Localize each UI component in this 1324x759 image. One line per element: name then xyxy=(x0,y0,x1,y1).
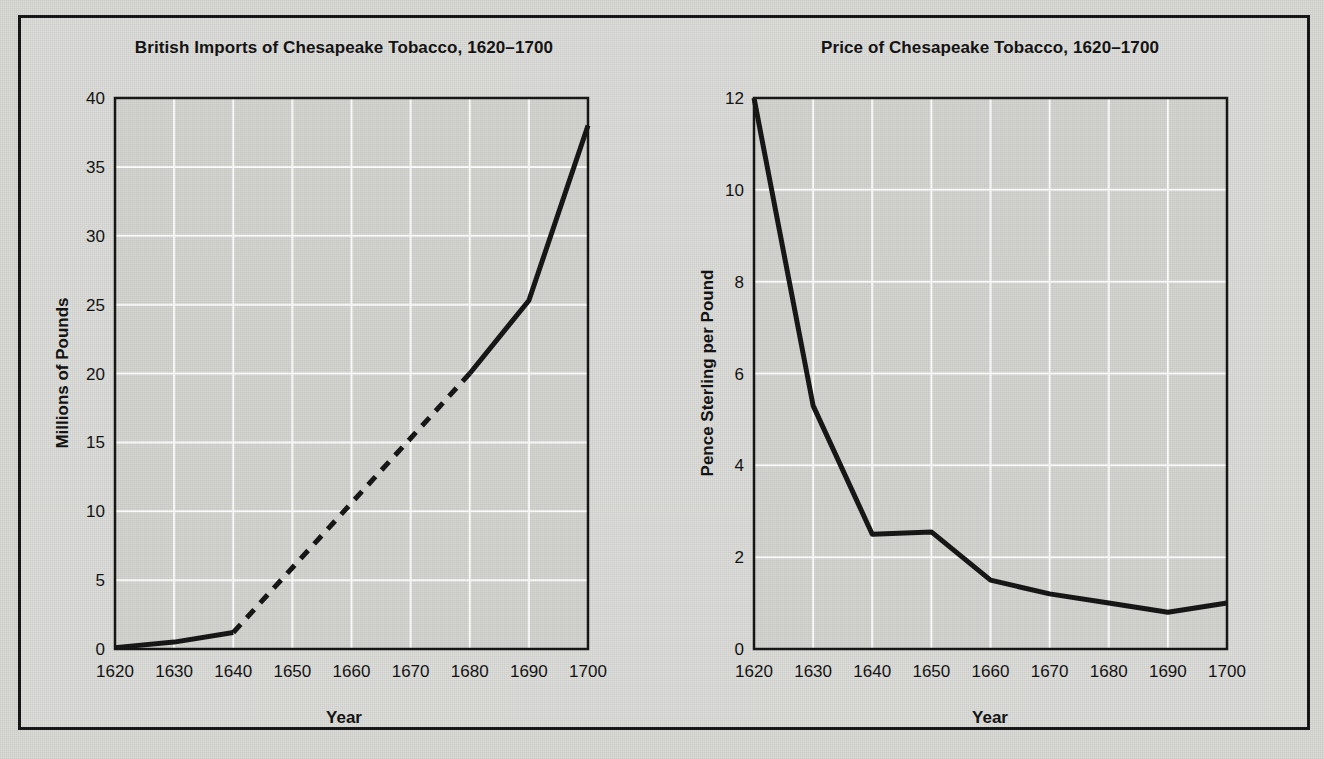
x-tick-label: 1620 xyxy=(96,662,134,681)
x-axis-label-year-left: Year xyxy=(21,708,667,728)
plot-area-tobacco-price: 0246810121620163016401650166016701680169… xyxy=(667,18,1313,733)
x-tick-label: 1680 xyxy=(451,662,489,681)
x-tick-label: 1700 xyxy=(1208,662,1246,681)
x-tick-label: 1670 xyxy=(1031,662,1069,681)
y-tick-label: 15 xyxy=(86,433,105,452)
x-tick-label: 1630 xyxy=(794,662,832,681)
y-tick-label: 10 xyxy=(86,502,105,521)
x-tick-label: 1670 xyxy=(392,662,430,681)
y-tick-label: 4 xyxy=(735,456,744,475)
x-tick-label: 1620 xyxy=(735,662,773,681)
y-tick-label: 8 xyxy=(735,273,744,292)
x-axis-label-year-right: Year xyxy=(667,708,1313,728)
y-tick-label: 10 xyxy=(725,181,744,200)
x-tick-label: 1650 xyxy=(273,662,311,681)
plot-area-british-imports: 0510152025303540162016301640165016601670… xyxy=(21,18,667,733)
y-tick-label: 40 xyxy=(86,89,105,108)
x-tick-label: 1630 xyxy=(155,662,193,681)
x-tick-label: 1680 xyxy=(1090,662,1128,681)
y-tick-label: 12 xyxy=(725,89,744,108)
x-tick-label: 1660 xyxy=(972,662,1010,681)
chart-british-imports: British Imports of Chesapeake Tobacco, 1… xyxy=(21,18,667,733)
y-tick-label: 25 xyxy=(86,296,105,315)
x-tick-label: 1690 xyxy=(1149,662,1187,681)
y-tick-label: 0 xyxy=(96,640,105,659)
x-tick-label: 1650 xyxy=(912,662,950,681)
x-tick-label: 1690 xyxy=(510,662,548,681)
x-tick-label: 1700 xyxy=(569,662,607,681)
y-tick-label: 6 xyxy=(735,365,744,384)
x-tick-label: 1640 xyxy=(853,662,891,681)
x-tick-label: 1640 xyxy=(214,662,252,681)
y-tick-label: 2 xyxy=(735,548,744,567)
figure-frame: British Imports of Chesapeake Tobacco, 1… xyxy=(18,15,1310,730)
y-tick-label: 30 xyxy=(86,227,105,246)
y-tick-label: 5 xyxy=(96,571,105,590)
y-tick-label: 35 xyxy=(86,158,105,177)
chart-tobacco-price: Price of Chesapeake Tobacco, 1620–1700 P… xyxy=(667,18,1313,733)
x-tick-label: 1660 xyxy=(333,662,371,681)
y-tick-label: 0 xyxy=(735,640,744,659)
y-tick-label: 20 xyxy=(86,365,105,384)
